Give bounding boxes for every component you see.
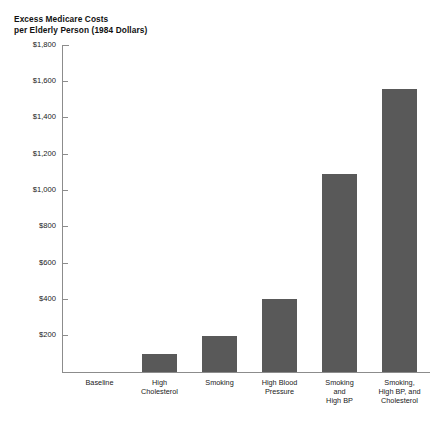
y-tick-label: $400 — [10, 295, 56, 303]
x-axis-label-0: Baseline — [68, 378, 132, 387]
bar-1 — [142, 354, 177, 372]
y-tick-label: $600 — [10, 259, 56, 267]
y-tick-mark — [62, 154, 68, 155]
x-axis-label-3: High BloodPressure — [248, 378, 312, 396]
x-axis-label-line: Smoking, — [368, 378, 432, 387]
y-tick-mark — [62, 226, 68, 227]
bar-4 — [322, 174, 357, 372]
y-tick-mark — [62, 81, 68, 82]
x-axis-label-2: Smoking — [188, 378, 252, 387]
y-tick-mark — [62, 299, 68, 300]
x-axis-label-line: High BP, and — [368, 387, 432, 396]
bar-2 — [202, 336, 237, 372]
x-axis-label-line: Pressure — [248, 387, 312, 396]
y-tick-label: $1,400 — [10, 113, 56, 121]
bar-5 — [382, 89, 417, 372]
x-axis-label-line: and — [308, 387, 372, 396]
x-axis-label-5: Smoking,High BP, andCholesterol — [368, 378, 432, 405]
x-axis-label-line: Smoking — [308, 378, 372, 387]
y-tick-label: $1,200 — [10, 150, 56, 158]
y-tick-mark — [62, 117, 68, 118]
y-tick-mark — [62, 335, 68, 336]
x-axis-label-line: High Blood — [248, 378, 312, 387]
y-tick-label: $1,800 — [10, 41, 56, 49]
y-tick-mark — [62, 190, 68, 191]
x-axis-label-line: Baseline — [68, 378, 132, 387]
y-axis-line — [62, 45, 63, 373]
x-axis-label-line: High — [128, 378, 192, 387]
bar-3 — [262, 299, 297, 372]
x-axis-label-4: SmokingandHigh BP — [308, 378, 372, 405]
plot-area: $200$400$600$800$1,000$1,200$1,400$1,600… — [0, 0, 439, 425]
x-axis-label-line: Cholesterol — [128, 387, 192, 396]
medicare-costs-bar-chart: Excess Medicare Costs per Elderly Person… — [0, 0, 439, 425]
y-tick-label: $200 — [10, 331, 56, 339]
y-tick-mark — [62, 263, 68, 264]
x-axis-label-line: High BP — [308, 396, 372, 405]
y-tick-label: $1,000 — [10, 186, 56, 194]
x-axis-label-line: Cholesterol — [368, 396, 432, 405]
y-tick-mark — [62, 45, 69, 46]
x-axis-line — [62, 372, 430, 373]
x-axis-label-line: Smoking — [188, 378, 252, 387]
y-tick-label: $800 — [10, 222, 56, 230]
y-tick-label: $1,600 — [10, 77, 56, 85]
x-axis-label-1: HighCholesterol — [128, 378, 192, 396]
